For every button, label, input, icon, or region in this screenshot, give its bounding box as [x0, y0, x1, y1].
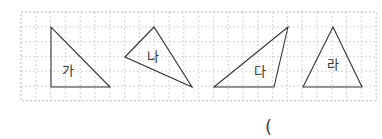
triangle-3: [214, 27, 288, 87]
triangle-label: 가: [62, 63, 74, 78]
grid-figure: 가나다라: [0, 0, 382, 139]
answer-paren: (: [265, 116, 272, 137]
triangle-label: 다: [254, 64, 266, 79]
triangle-label: 라: [327, 57, 339, 72]
triangle-label: 나: [147, 49, 159, 64]
